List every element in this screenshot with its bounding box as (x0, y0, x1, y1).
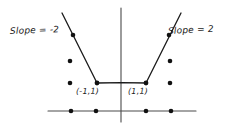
dot-right-lower (168, 81, 173, 86)
left-ray-slope-negative-two (62, 13, 97, 83)
dot-on-left-ray (71, 33, 76, 38)
right-ray-slope-two (146, 13, 181, 83)
point-label-right: (1,1) (128, 87, 148, 96)
dot-x-axis-3 (144, 109, 149, 114)
point-label-left: (-1,1) (76, 87, 99, 96)
dot-left-upper (68, 59, 73, 64)
slope-label-left: Slope = -2 (10, 24, 60, 36)
sketch-canvas: Slope = -2 Slope = 2 (-1,1) (1,1) (0, 0, 229, 139)
dot-vertex-left (95, 81, 100, 86)
dot-left-lower (68, 81, 73, 86)
dot-x-axis-4 (169, 109, 174, 114)
dot-vertex-right (144, 81, 149, 86)
dot-x-axis-1 (69, 109, 74, 114)
dot-x-axis-2 (94, 109, 99, 114)
dot-right-upper (168, 59, 173, 64)
piecewise-graph-svg (0, 0, 229, 139)
